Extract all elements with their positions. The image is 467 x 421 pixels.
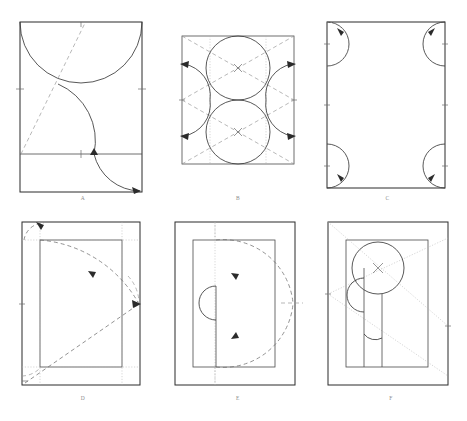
panel-c-drawing — [315, 14, 460, 204]
outer-rectangle — [20, 22, 142, 192]
panel-d-drawing — [8, 216, 158, 406]
arrowhead-left-upper — [180, 61, 189, 68]
arrowhead-right-upper — [287, 61, 296, 68]
arrowhead-lower — [231, 332, 239, 339]
panel-b: B — [168, 14, 308, 204]
figure-sheet: A — [0, 0, 467, 421]
dashed-upper-curve — [216, 240, 293, 303]
inner-rectangle — [346, 240, 428, 367]
bottom-right-corner-arc — [423, 144, 445, 188]
arrowhead-mid — [88, 271, 96, 278]
outer-rectangle — [327, 22, 445, 188]
s-curve-lower — [94, 154, 140, 191]
bottom-concave-arc — [364, 334, 382, 340]
inner-rectangle — [40, 240, 122, 367]
panel-f: F — [316, 216, 466, 406]
arrowhead-end — [132, 187, 141, 194]
s-curve-upper — [58, 84, 95, 154]
arrowhead-right-lower — [287, 133, 296, 140]
dashed-lower-curve — [216, 304, 293, 367]
panel-a-label: A — [8, 196, 158, 202]
panel-e-drawing — [163, 216, 313, 406]
center-x-lower — [234, 128, 242, 136]
panel-e-label: E — [163, 396, 313, 402]
panel-c: C — [315, 14, 460, 204]
bottom-left-corner-arc — [327, 144, 349, 188]
arrowhead-mid — [90, 148, 98, 155]
panel-f-drawing — [316, 216, 466, 406]
center-x-mark — [373, 263, 383, 273]
center-x-upper — [234, 64, 242, 72]
arrowhead-left-lower — [180, 133, 189, 140]
panel-b-label: B — [168, 196, 308, 202]
panel-c-label: C — [315, 196, 460, 202]
panel-d-label: D — [8, 396, 158, 402]
left-semicircle — [199, 286, 216, 320]
dashed-diagonal — [21, 23, 85, 154]
panel-e: E — [163, 216, 313, 406]
panel-a: A — [8, 14, 158, 204]
panel-f-label: F — [316, 396, 466, 402]
left-semicircle — [347, 278, 364, 312]
inner-rectangle — [193, 240, 275, 367]
panel-d: D — [8, 216, 158, 406]
panel-b-drawing — [168, 14, 308, 204]
dashed-arc-bottom-left — [22, 367, 41, 376]
arrowhead-upper — [231, 273, 239, 280]
panel-a-drawing — [8, 14, 158, 204]
